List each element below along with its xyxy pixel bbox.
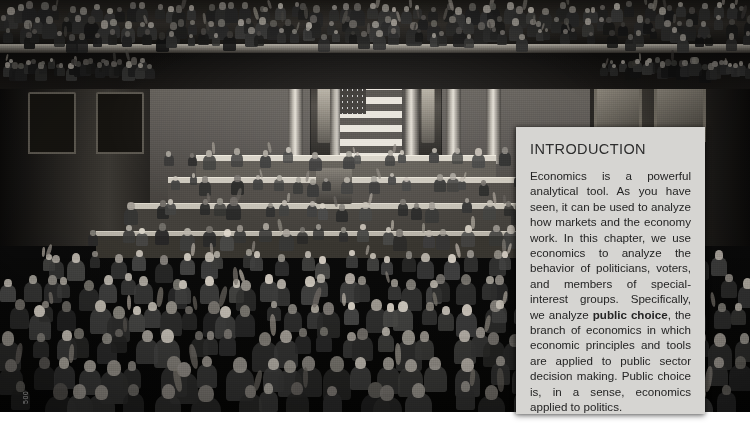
introduction-heading: INTRODUCTION (530, 141, 691, 157)
introduction-key-term: public choice (593, 308, 668, 321)
introduction-body-part1: Economics is a powerful analytical tool.… (530, 169, 691, 321)
introduction-callout: INTRODUCTION Economics is a powerful ana… (516, 127, 705, 414)
introduction-body: Economics is a powerful analytical tool.… (530, 168, 691, 415)
introduction-body-part2: , the branch of economics in which econo… (530, 308, 691, 413)
rostrum-tier-3 (128, 203, 540, 232)
chamber-door-left (28, 92, 76, 154)
textbook-page: INTRODUCTION Economics is a powerful ana… (0, 0, 750, 429)
chamber-door-left-2 (96, 92, 144, 154)
page-number: 500 (22, 391, 29, 404)
